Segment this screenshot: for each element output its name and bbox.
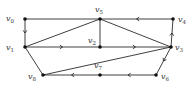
node-label-v2: v2	[88, 36, 96, 46]
edge-v8-v3	[43, 47, 171, 75]
edge-v5-v3	[100, 19, 171, 47]
label-layer: v0v1v2v3v4v5v6v7v8	[6, 5, 187, 82]
node-v7	[98, 73, 102, 77]
node-v8	[41, 73, 45, 77]
node-label-v3: v3	[175, 43, 184, 53]
node-label-v5: v5	[95, 5, 104, 15]
node-v1	[23, 45, 27, 49]
node-label-v1: v1	[6, 43, 14, 53]
node-v2	[98, 45, 102, 49]
directed-graph-diagram: v0v1v2v3v4v5v6v7v8	[0, 0, 196, 90]
node-label-v8: v8	[28, 72, 37, 82]
node-v3	[169, 45, 173, 49]
node-v4	[171, 17, 175, 21]
node-label-v0: v0	[6, 14, 15, 24]
edge-v1-v8	[25, 47, 43, 75]
node-v6	[154, 73, 158, 77]
node-label-v4: v4	[178, 15, 187, 25]
node-v5	[98, 17, 102, 21]
node-v0	[23, 17, 27, 21]
node-label-v6: v6	[161, 72, 170, 82]
